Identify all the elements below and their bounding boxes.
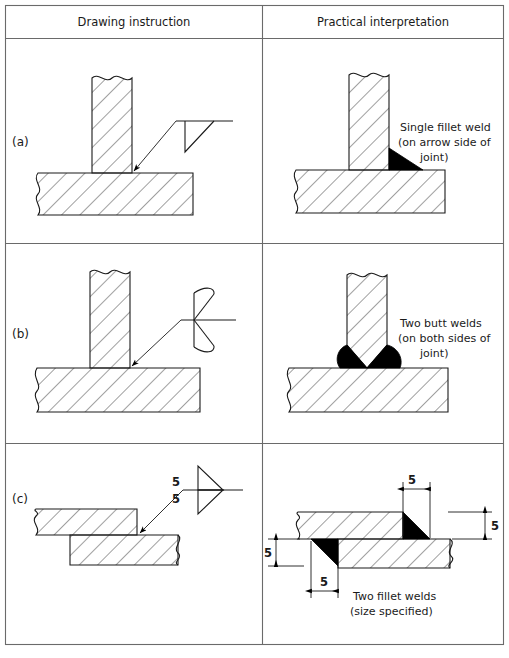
row-label-c: (c): [12, 492, 28, 506]
caption-a-line-3: joint): [419, 151, 448, 164]
caption-c-line-1: Two fillet welds: [352, 590, 437, 603]
dimension-label-c-right: 5: [491, 519, 499, 533]
weld-size-c-upper: 5: [172, 475, 180, 489]
dimension-label-c-top: 5: [408, 473, 416, 487]
caption-a-line-2: (on arrow side of: [398, 136, 492, 149]
lap-upper-plate-c-interp: [296, 512, 403, 539]
weld-size-c-lower: 5: [172, 492, 180, 506]
dimension-label-c-bottom: 5: [320, 575, 328, 589]
column-header-practical-interpretation: Practical interpretation: [317, 15, 449, 29]
lap-upper-plate-c: [34, 509, 137, 535]
web-plate-a-interp: [349, 73, 389, 170]
row-label-b: (b): [12, 327, 29, 341]
caption-c-line-2: (size specified): [350, 605, 433, 618]
base-plate-a-interp: [294, 170, 445, 213]
base-plate-a: [36, 173, 193, 215]
caption-b-line-1: Two butt welds: [399, 317, 482, 330]
caption-a-line-1: Single fillet weld: [400, 121, 491, 134]
figure-page: Drawing instruction Practical interpreta…: [0, 0, 509, 658]
welding-symbols-figure: Drawing instruction Practical interpreta…: [0, 0, 509, 658]
dimension-label-c-left: 5: [264, 546, 272, 560]
row-label-a: (a): [12, 135, 29, 149]
lap-lower-plate-c: [70, 535, 180, 565]
caption-b-line-2: (on both sides of: [398, 332, 491, 345]
column-header-drawing-instruction: Drawing instruction: [78, 15, 191, 29]
base-plate-b-interp: [287, 368, 448, 412]
lap-lower-plate-c-interp: [338, 539, 453, 568]
base-plate-b: [35, 368, 200, 412]
web-plate-a: [92, 76, 132, 173]
web-plate-b: [90, 270, 130, 368]
caption-b-line-3: joint): [419, 347, 448, 360]
